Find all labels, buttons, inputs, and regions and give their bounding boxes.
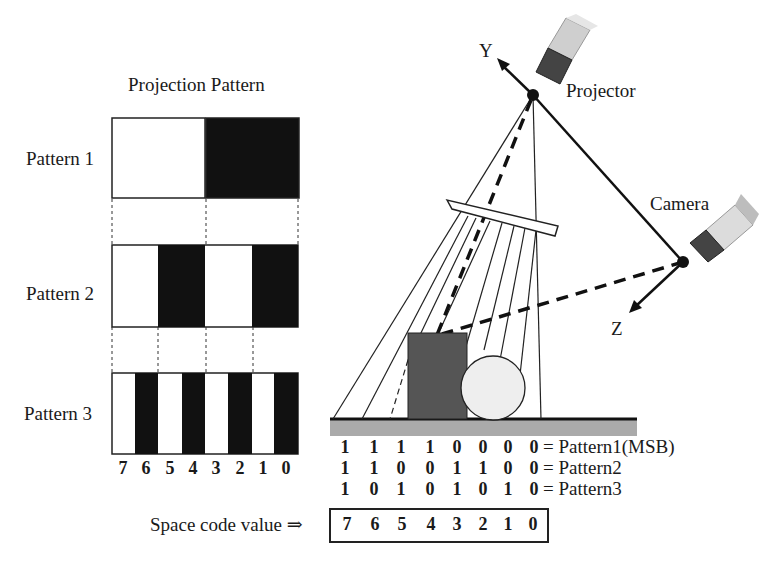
bit: 1 <box>445 479 469 500</box>
bit: 0 <box>471 437 495 458</box>
space-code-digit: 4 <box>419 514 443 535</box>
column-index: 1 <box>251 458 275 479</box>
space-code-digit: 2 <box>471 514 495 535</box>
space-code-digit: 6 <box>363 514 387 535</box>
space-code-digit: 7 <box>335 514 359 535</box>
bit: 1 <box>362 458 386 479</box>
pattern2-label: = Pattern2 <box>543 457 622 479</box>
pattern3-label: = Pattern3 <box>543 478 622 500</box>
column-index: 5 <box>158 458 182 479</box>
bit: 1 <box>389 479 413 500</box>
bit: 1 <box>445 458 469 479</box>
column-index: 6 <box>134 458 158 479</box>
bit: 0 <box>496 458 520 479</box>
bit: 1 <box>389 437 413 458</box>
bit: 0 <box>418 479 442 500</box>
y-axis-label: Y <box>479 40 493 62</box>
bit: 1 <box>418 437 442 458</box>
pattern-3-strip <box>112 373 298 454</box>
column-index: 7 <box>111 458 135 479</box>
bit: 0 <box>496 437 520 458</box>
pattern1-msb-label: = Pattern1(MSB) <box>543 436 675 458</box>
bit: 1 <box>362 437 386 458</box>
camera-origin-point <box>677 256 689 268</box>
object-box <box>408 333 467 419</box>
bit: 0 <box>445 437 469 458</box>
space-code-digit: 1 <box>496 514 520 535</box>
space-code-digit: 3 <box>445 514 469 535</box>
space-code-digit: 5 <box>390 514 414 535</box>
pattern-mask-plate <box>447 200 558 236</box>
bit: 0 <box>362 479 386 500</box>
bit: 1 <box>333 458 357 479</box>
bit: 1 <box>496 479 520 500</box>
space-code-digit: 0 <box>521 514 545 535</box>
y-axis <box>502 65 533 95</box>
bit: 0 <box>471 479 495 500</box>
column-index: 2 <box>228 458 252 479</box>
camera-ray-dashed <box>442 262 683 334</box>
bit: 1 <box>471 458 495 479</box>
column-index: 4 <box>181 458 205 479</box>
z-axis-label: Z <box>611 318 623 340</box>
object-sphere <box>461 356 525 420</box>
column-index: 0 <box>274 458 298 479</box>
guide-lines-2 <box>112 327 253 373</box>
pattern-1-strip <box>112 118 299 198</box>
projector-icon <box>536 14 598 84</box>
bit: 1 <box>333 437 357 458</box>
bit: 0 <box>418 458 442 479</box>
bit: 1 <box>333 479 357 500</box>
camera-label: Camera <box>650 193 709 215</box>
projector-origin-point <box>527 89 539 101</box>
y-axis-arrowhead <box>497 58 510 71</box>
space-code-label: Space code value ⇒ <box>150 513 303 536</box>
baseline-axis <box>533 95 683 262</box>
bit: 0 <box>389 458 413 479</box>
ground-plane <box>330 419 637 436</box>
guide-lines-1 <box>112 199 298 245</box>
column-index: 3 <box>204 458 228 479</box>
projector-label: Projector <box>566 80 636 102</box>
pattern-2-strip <box>112 245 298 327</box>
